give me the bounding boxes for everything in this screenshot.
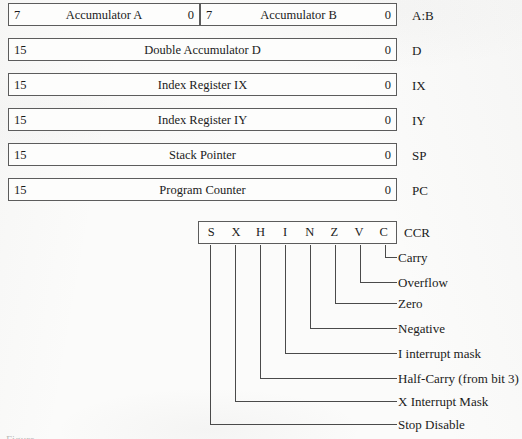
leader-line-x-interrupt-mask xyxy=(236,245,397,402)
ccr-bit-v: V xyxy=(347,222,372,243)
register-box-stack-pointer: 15 Stack Pointer 0 xyxy=(8,143,397,166)
leader-line-carry xyxy=(386,245,397,258)
ccr-bit-s: S xyxy=(199,222,224,243)
bit-label-lsb: 0 xyxy=(385,113,391,126)
flag-label-negative: Negative xyxy=(398,322,445,335)
ccr-bit-x: X xyxy=(224,222,249,243)
flag-label-overflow: Overflow xyxy=(398,276,448,289)
register-box-program-counter: 15 Program Counter 0 xyxy=(8,178,397,201)
bit-label-lsb: 0 xyxy=(385,148,391,161)
register-title: Accumulator B xyxy=(201,8,396,21)
register-title: Accumulator A xyxy=(9,8,199,21)
flag-label-carry: Carry xyxy=(398,251,428,264)
register-name-d: D xyxy=(412,43,421,56)
flag-label-i-interrupt-mask: I interrupt mask xyxy=(398,347,481,360)
register-name-ix: IX xyxy=(412,78,426,91)
register-name-ccr: CCR xyxy=(404,226,430,239)
bit-label-lsb: 0 xyxy=(385,8,391,21)
register-box-accumulator-a: 7 Accumulator A 0 xyxy=(8,3,200,26)
register-box-accumulator-b: 7 Accumulator B 0 xyxy=(200,3,397,26)
register-title: Index Register IY xyxy=(9,113,396,126)
bit-label-lsb: 0 xyxy=(385,183,391,196)
bit-label-lsb: 0 xyxy=(385,78,391,91)
flag-label-zero: Zero xyxy=(398,297,423,310)
flag-label-x-interrupt-mask: X Interrupt Mask xyxy=(398,395,488,408)
flag-label-stop-disable: Stop Disable xyxy=(398,418,465,431)
ccr-bit-n: N xyxy=(298,222,323,243)
ccr-bit-i: I xyxy=(273,222,298,243)
ccr-bit-z: Z xyxy=(322,222,347,243)
leader-line-stop-disable xyxy=(211,245,397,425)
flag-label-half-carry: Half-Carry (from bit 3) xyxy=(398,372,519,385)
register-box-index-register-iy: 15 Index Register IY 0 xyxy=(8,108,397,131)
register-name-sp: SP xyxy=(412,148,426,161)
register-name-ab: A:B xyxy=(412,8,434,21)
register-title: Index Register IX xyxy=(9,78,396,91)
leader-line-i-interrupt-mask xyxy=(286,245,397,354)
bit-label-lsb: 0 xyxy=(188,8,194,21)
register-title: Program Counter xyxy=(9,183,396,196)
register-title: Double Accumulator D xyxy=(9,43,396,56)
register-box-index-register-ix: 15 Index Register IX 0 xyxy=(8,73,397,96)
register-box-double-accumulator-d: 15 Double Accumulator D 0 xyxy=(8,38,397,61)
register-name-iy: IY xyxy=(412,113,426,126)
ccr-register-box: S X H I N Z V C xyxy=(198,221,397,244)
ccr-bit-c: C xyxy=(371,222,396,243)
leader-line-half-carry xyxy=(261,245,397,379)
ccr-bit-h: H xyxy=(248,222,273,243)
leader-line-overflow xyxy=(361,245,397,283)
figure-caption: Figure xyxy=(6,434,156,439)
register-set-diagram: 7 Accumulator A 0 7 Accumulator B 0 A:B … xyxy=(0,0,522,439)
leader-line-zero xyxy=(336,245,397,304)
leader-line-negative xyxy=(311,245,397,329)
bit-label-lsb: 0 xyxy=(385,43,391,56)
register-title: Stack Pointer xyxy=(9,148,396,161)
register-name-pc: PC xyxy=(412,183,428,196)
